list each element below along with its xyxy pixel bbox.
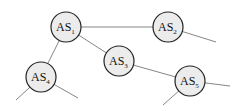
- node-subscript: 2: [173, 28, 177, 36]
- node-subscript: 5: [195, 82, 199, 90]
- node-label: AS: [31, 70, 46, 84]
- node-as3: AS3: [104, 46, 134, 76]
- node-label: AS: [109, 54, 124, 68]
- node-label: AS: [56, 20, 71, 34]
- as-network-diagram: AS1 AS2 AS3 AS4 AS5: [0, 0, 246, 111]
- node-as4: AS4: [26, 62, 56, 92]
- node-label: AS: [158, 20, 173, 34]
- node-as1: AS1: [51, 12, 81, 42]
- node-subscript: 3: [124, 62, 128, 70]
- node-label: AS: [180, 74, 195, 88]
- node-subscript: 1: [71, 28, 75, 36]
- node-subscript: 4: [46, 78, 50, 86]
- node-as5: AS5: [175, 66, 205, 96]
- node-as2: AS2: [153, 12, 183, 42]
